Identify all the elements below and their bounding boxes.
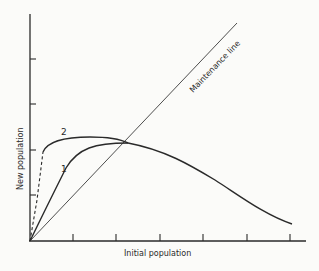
x-ticks bbox=[73, 234, 290, 241]
curve-2-label: 2 bbox=[61, 127, 67, 137]
chart: New population Initial population Mainte… bbox=[0, 0, 319, 271]
declining-curve bbox=[128, 143, 292, 224]
x-axis-label: Initial population bbox=[124, 249, 191, 258]
curve-1-label: 1 bbox=[61, 164, 67, 174]
y-ticks bbox=[30, 59, 36, 195]
curve-1 bbox=[30, 143, 128, 241]
y-axis-label: New population bbox=[16, 127, 25, 190]
